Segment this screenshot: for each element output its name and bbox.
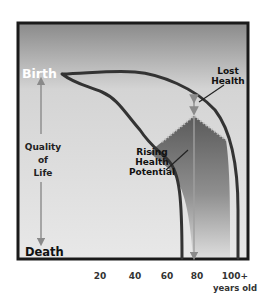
- x-axis-unit: years old: [213, 283, 257, 293]
- birth-label: Birth: [22, 66, 57, 81]
- quality-label-line3: Life: [34, 168, 53, 178]
- rising-label-line1: Rising: [136, 147, 167, 157]
- health-span-diagram: Birth Quality of Life Death Lost Health …: [0, 0, 268, 306]
- quality-label-line1: Quality: [25, 142, 62, 152]
- rising-label-line2: Health: [135, 157, 169, 167]
- lost-health-line1: Lost: [217, 66, 239, 76]
- x-tick-20: 20: [85, 271, 115, 281]
- rising-label-line3: Potential: [129, 167, 175, 177]
- lost-health-line2: Health: [211, 76, 245, 86]
- x-tick-60: 60: [152, 271, 182, 281]
- x-tick-100: 100+: [220, 271, 250, 281]
- quality-label-line2: of: [38, 155, 48, 165]
- diagram-canvas: Birth Quality of Life Death Lost Health …: [0, 0, 268, 306]
- x-tick-80: 80: [182, 271, 212, 281]
- death-label: Death: [25, 245, 64, 259]
- x-tick-40: 40: [120, 271, 150, 281]
